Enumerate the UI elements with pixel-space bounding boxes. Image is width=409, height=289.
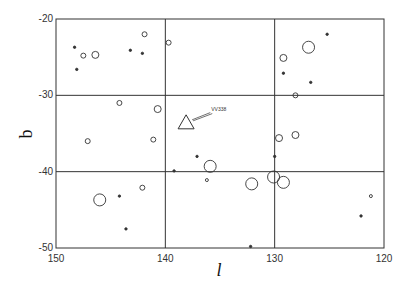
dot-marker [73, 46, 75, 48]
x-axis-label: l [216, 260, 221, 280]
plot-frame [56, 19, 384, 248]
data-points [73, 32, 372, 248]
y-axis-ticks: -20-30-40-50 [39, 13, 54, 253]
circle-marker [142, 32, 147, 37]
dot-marker [273, 155, 275, 157]
annotation-arrow [193, 114, 212, 121]
annotation-label: VV338 [211, 106, 226, 112]
annotations: VV338 [192, 106, 226, 121]
y-tick-label: -20 [39, 13, 54, 24]
circle-marker [246, 178, 258, 190]
x-tick-label: 120 [376, 253, 393, 264]
circle-marker [277, 176, 289, 188]
dot-marker [118, 195, 120, 197]
x-tick-label: 150 [48, 253, 65, 264]
circle-marker [369, 195, 372, 198]
circle-marker [85, 139, 90, 144]
scatter-chart: 150140130120 -20-30-40-50 VV338 l b [0, 0, 409, 289]
circle-marker [151, 137, 156, 142]
dot-marker [125, 228, 127, 230]
x-tick-label: 140 [157, 253, 174, 264]
dot-marker [76, 68, 78, 70]
dot-marker [310, 81, 312, 83]
circle-marker [140, 185, 145, 190]
circle-marker [276, 135, 283, 142]
dot-marker [249, 245, 251, 247]
annotation-arrow [192, 113, 210, 120]
dot-marker [129, 49, 131, 51]
dot-marker [282, 72, 284, 74]
circle-marker [205, 179, 208, 182]
circle-marker [292, 132, 299, 139]
circle-marker [94, 194, 106, 206]
y-axis-label: b [16, 130, 36, 139]
dot-marker [173, 170, 175, 172]
y-tick-label: -50 [39, 242, 54, 253]
circle-marker [92, 51, 99, 58]
y-tick-label: -30 [39, 89, 54, 100]
circle-marker [204, 160, 216, 172]
triangle-marker [178, 115, 194, 129]
dot-marker [326, 33, 328, 35]
circle-marker [280, 54, 287, 61]
circle-marker [117, 100, 122, 105]
grid-lines [56, 19, 384, 248]
circle-marker [303, 41, 315, 53]
y-tick-label: -40 [39, 166, 54, 177]
dot-marker [360, 215, 362, 217]
circle-marker [154, 106, 161, 113]
dot-marker [196, 155, 198, 157]
circle-marker [81, 53, 86, 58]
x-tick-label: 130 [266, 253, 283, 264]
circle-marker [166, 40, 171, 45]
dot-marker [141, 52, 143, 54]
